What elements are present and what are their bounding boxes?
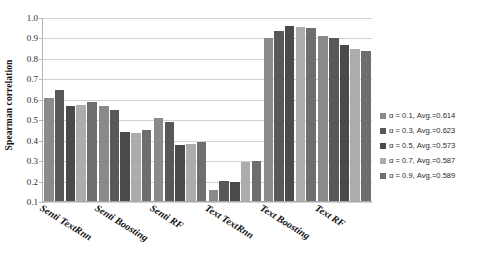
x-category-label: Senti TextRnn bbox=[38, 202, 94, 243]
legend-swatch-icon bbox=[380, 173, 386, 179]
bar[interactable] bbox=[76, 105, 86, 202]
y-tick-mark bbox=[39, 141, 43, 142]
x-axis-category-labels: Senti TextRnnSenti BoostingSenti RFText … bbox=[42, 202, 372, 260]
y-tick-label: 0.4 bbox=[27, 136, 38, 146]
legend-item[interactable]: α = 0.7, Avg.=0.587 bbox=[380, 153, 483, 168]
bar[interactable] bbox=[175, 145, 185, 202]
bar[interactable] bbox=[44, 98, 54, 202]
y-axis-title-text: Spearman correlation bbox=[4, 60, 14, 151]
bar[interactable] bbox=[131, 133, 141, 203]
x-category-label: Senti RF bbox=[148, 202, 185, 231]
bar-group bbox=[98, 18, 153, 202]
bar[interactable] bbox=[230, 182, 240, 202]
y-tick-label: 0.6 bbox=[27, 95, 38, 105]
legend-label: α = 0.7, Avg.=0.587 bbox=[389, 156, 455, 165]
bar[interactable] bbox=[296, 27, 306, 202]
legend-label: α = 0.1, Avg.=0.614 bbox=[389, 111, 455, 120]
legend-item[interactable]: α = 0.9, Avg.=0.589 bbox=[380, 168, 483, 183]
bar[interactable] bbox=[197, 142, 207, 202]
bar[interactable] bbox=[361, 51, 371, 202]
x-category-label: Text TextRnn bbox=[203, 202, 256, 241]
legend: α = 0.1, Avg.=0.614α = 0.3, Avg.=0.623α … bbox=[380, 108, 483, 183]
legend-swatch-icon bbox=[380, 113, 386, 119]
bar-group bbox=[262, 18, 317, 202]
bar[interactable] bbox=[285, 26, 295, 202]
y-tick-label: 0.5 bbox=[27, 115, 38, 125]
y-tick-label: 0.9 bbox=[27, 33, 38, 43]
y-tick-mark bbox=[39, 182, 43, 183]
plot-area bbox=[42, 18, 372, 202]
y-tick-label: 0.7 bbox=[27, 74, 38, 84]
bar[interactable] bbox=[340, 45, 350, 202]
bar[interactable] bbox=[318, 36, 328, 202]
bar[interactable] bbox=[329, 38, 339, 202]
x-category-label: Text RF bbox=[313, 202, 347, 229]
bar[interactable] bbox=[120, 132, 130, 202]
y-tick-mark bbox=[39, 161, 43, 162]
bar[interactable] bbox=[87, 102, 97, 202]
bar[interactable] bbox=[110, 110, 120, 202]
y-tick-label: 1.0 bbox=[27, 13, 38, 23]
legend-swatch-icon bbox=[380, 128, 386, 134]
bar[interactable] bbox=[219, 181, 229, 202]
y-tick-label: 0.2 bbox=[27, 177, 38, 187]
bar[interactable] bbox=[274, 31, 284, 202]
bar[interactable] bbox=[142, 130, 152, 202]
y-tick-label: 0.8 bbox=[27, 54, 38, 64]
bar-group bbox=[43, 18, 98, 202]
x-category-label: Senti Boosting bbox=[93, 202, 150, 243]
y-tick-mark bbox=[39, 59, 43, 60]
legend-label: α = 0.3, Avg.=0.623 bbox=[389, 126, 455, 135]
bar-groups bbox=[43, 18, 372, 202]
y-axis-tick-labels: 1.00.90.80.70.60.50.40.30.20.1 bbox=[14, 18, 40, 202]
bar[interactable] bbox=[165, 122, 175, 202]
legend-item[interactable]: α = 0.3, Avg.=0.623 bbox=[380, 123, 483, 138]
bar-group bbox=[317, 18, 372, 202]
bar[interactable] bbox=[241, 162, 251, 202]
bar-group bbox=[153, 18, 208, 202]
y-tick-mark bbox=[39, 79, 43, 80]
bar[interactable] bbox=[66, 106, 76, 202]
y-tick-label: 0.3 bbox=[27, 156, 38, 166]
legend-label: α = 0.9, Avg.=0.589 bbox=[389, 171, 455, 180]
y-tick-mark bbox=[39, 38, 43, 39]
legend-label: α = 0.5, Avg.=0.573 bbox=[389, 141, 455, 150]
bar[interactable] bbox=[186, 144, 196, 202]
bar[interactable] bbox=[55, 90, 65, 202]
bar[interactable] bbox=[99, 106, 109, 202]
legend-item[interactable]: α = 0.5, Avg.=0.573 bbox=[380, 138, 483, 153]
y-tick-mark bbox=[39, 18, 43, 19]
bar[interactable] bbox=[306, 28, 316, 202]
spearman-correlation-bar-chart: Spearman correlation 1.00.90.80.70.60.50… bbox=[0, 0, 483, 262]
x-category-label: Text Boosting bbox=[258, 202, 312, 241]
legend-item[interactable]: α = 0.1, Avg.=0.614 bbox=[380, 108, 483, 123]
bar[interactable] bbox=[154, 118, 164, 202]
bar[interactable] bbox=[264, 38, 274, 202]
bar[interactable] bbox=[350, 49, 360, 202]
y-tick-mark bbox=[39, 120, 43, 121]
bar-group bbox=[207, 18, 262, 202]
legend-swatch-icon bbox=[380, 158, 386, 164]
bar[interactable] bbox=[252, 161, 262, 202]
legend-swatch-icon bbox=[380, 143, 386, 149]
y-tick-mark bbox=[39, 100, 43, 101]
y-tick-label: 0.1 bbox=[27, 197, 38, 207]
